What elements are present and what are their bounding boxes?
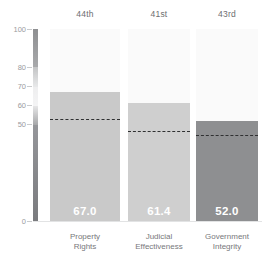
bar-value-government-integrity: 52.0 xyxy=(196,205,258,217)
category-label-property-rights: Property Rights xyxy=(50,232,120,252)
reference-line-government-integrity xyxy=(196,135,258,136)
bar-value-judicial-effectiveness: 61.4 xyxy=(128,205,190,217)
bar-value-property-rights: 67.0 xyxy=(50,205,120,217)
y-tick-mark-100 xyxy=(27,29,32,30)
category-label-line2: Effectiveness xyxy=(124,242,194,252)
axis-segment-100-80 xyxy=(33,29,38,67)
y-tick-mark-0 xyxy=(27,221,32,222)
y-tick-label-100: 100 xyxy=(4,25,26,34)
y-tick-label-0: 0 xyxy=(4,217,26,226)
bar-judicial-effectiveness[interactable]: 61.4 xyxy=(128,103,190,221)
y-tick-label-60: 60 xyxy=(4,101,26,110)
axis-segment-80-70 xyxy=(33,67,38,87)
y-tick-mark-70 xyxy=(27,86,32,87)
axis-segment-50-0 xyxy=(33,125,38,221)
category-label-line1: Judicial xyxy=(124,232,194,242)
score-bar-chart: 44th 41st 43rd 100 80 70 60 50 0 xyxy=(0,0,262,260)
y-axis-spine xyxy=(33,29,38,221)
category-label-line1: Government xyxy=(192,232,262,242)
axis-segment-70-60 xyxy=(33,87,38,106)
reference-line-property-rights xyxy=(50,119,120,120)
y-tick-mark-80 xyxy=(27,67,32,68)
axis-segment-60-50 xyxy=(33,106,38,125)
x-axis-baseline xyxy=(33,221,262,222)
category-label-government-integrity: Government Integrity xyxy=(192,232,262,252)
y-tick-mark-60 xyxy=(27,105,32,106)
category-label-judicial-effectiveness: Judicial Effectiveness xyxy=(124,232,194,252)
bar-property-rights[interactable]: 67.0 xyxy=(50,92,120,221)
bar-government-integrity[interactable]: 52.0 xyxy=(196,121,258,221)
y-tick-label-50: 50 xyxy=(4,120,26,129)
y-tick-label-80: 80 xyxy=(4,63,26,72)
y-tick-mark-50 xyxy=(27,124,32,125)
plot-area: 100 80 70 60 50 0 67.0 61.4 52.0 Propert… xyxy=(0,0,262,260)
category-label-line2: Integrity xyxy=(192,242,262,252)
category-label-line1: Property xyxy=(50,232,120,242)
y-tick-label-70: 70 xyxy=(4,82,26,91)
category-label-line2: Rights xyxy=(50,242,120,252)
reference-line-judicial-effectiveness xyxy=(128,131,190,132)
